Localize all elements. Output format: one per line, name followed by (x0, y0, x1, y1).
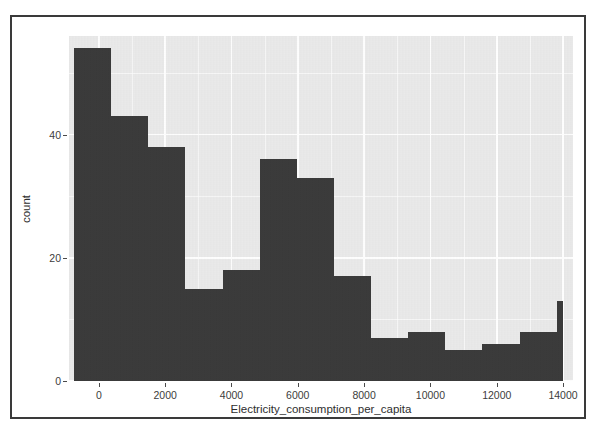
x-tick-mark (231, 383, 232, 387)
histogram-bar (520, 332, 557, 381)
y-tick-mark (63, 381, 67, 382)
gridline-x-minor (530, 36, 531, 381)
histogram-bar (148, 147, 185, 381)
gridline-x-minor (464, 36, 465, 381)
histogram-bar (74, 48, 111, 381)
plot-panel (69, 36, 573, 381)
histogram-bar (260, 159, 297, 381)
x-tick-label: 14000 (548, 389, 577, 401)
y-axis-title: count (20, 194, 32, 222)
y-tick-mark (63, 135, 67, 136)
x-tick-label: 10000 (416, 389, 445, 401)
gridline-x-major (430, 36, 432, 381)
gridline-y-minor (69, 73, 573, 74)
x-tick-mark (497, 383, 498, 387)
x-tick-label: 4000 (220, 389, 243, 401)
histogram-bar (445, 350, 482, 381)
histogram-bar (223, 270, 260, 381)
x-tick-mark (364, 383, 365, 387)
histogram-bar (408, 332, 445, 381)
x-tick-mark (563, 383, 564, 387)
x-tick-mark (430, 383, 431, 387)
x-tick-label: 8000 (352, 389, 375, 401)
x-tick-label: 0 (96, 389, 102, 401)
gridline-x-major (496, 36, 498, 381)
gridline-x-minor (397, 36, 398, 381)
y-tick-label: 0 (39, 375, 61, 387)
x-axis-title: Electricity_consumption_per_capita (69, 403, 573, 415)
y-tick-mark (63, 258, 67, 259)
x-tick-mark (298, 383, 299, 387)
histogram-bar (297, 178, 334, 381)
histogram-bar (111, 116, 148, 381)
histogram-bar (482, 344, 519, 381)
histogram-bar (371, 338, 408, 381)
figure-frame: 02000400060008000100001200014000 02040 E… (10, 15, 586, 419)
x-tick-label: 12000 (482, 389, 511, 401)
x-tick-mark (165, 383, 166, 387)
histogram-bar (185, 289, 222, 381)
x-tick-mark (99, 383, 100, 387)
histogram-bar (557, 301, 563, 381)
x-tick-label: 6000 (286, 389, 309, 401)
y-tick-label: 20 (39, 252, 61, 264)
y-tick-label: 40 (39, 129, 61, 141)
x-tick-label: 2000 (153, 389, 176, 401)
histogram-bar (334, 276, 371, 381)
